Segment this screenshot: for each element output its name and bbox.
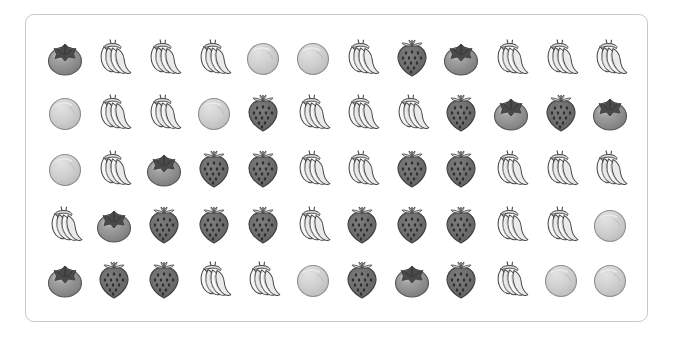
banana-icon <box>538 145 584 193</box>
fruit-cell-banana <box>290 200 336 250</box>
fruit-cell-strawberry <box>191 144 237 194</box>
fruit-cell-persimmon <box>587 88 633 138</box>
strawberry-icon <box>339 256 385 304</box>
fruit-cell-banana <box>240 255 286 305</box>
fruit-cell-orange <box>587 200 633 250</box>
fruit-cell-banana <box>587 144 633 194</box>
banana-icon <box>488 145 534 193</box>
banana-icon <box>488 34 534 82</box>
strawberry-icon <box>389 201 435 249</box>
fruit-cell-banana <box>538 33 584 83</box>
strawberry-icon <box>389 34 435 82</box>
fruit-cell-strawberry <box>339 200 385 250</box>
fruit-cell-strawberry <box>191 200 237 250</box>
orange-icon <box>42 145 88 193</box>
fruit-grid <box>26 14 649 322</box>
fruit-cell-banana <box>191 255 237 305</box>
fruit-cell-banana <box>488 144 534 194</box>
banana-icon <box>389 89 435 137</box>
fruit-cell-strawberry <box>389 144 435 194</box>
fruit-cell-orange <box>290 255 336 305</box>
fruit-cell-strawberry <box>339 255 385 305</box>
strawberry-icon <box>191 145 237 193</box>
orange-icon <box>240 34 286 82</box>
persimmon-icon <box>488 89 534 137</box>
fruit-cell-banana <box>538 144 584 194</box>
strawberry-icon <box>240 89 286 137</box>
fruit-cell-banana <box>339 88 385 138</box>
fruit-cell-banana <box>488 200 534 250</box>
fruit-cell-persimmon <box>488 88 534 138</box>
persimmon-icon <box>42 34 88 82</box>
persimmon-icon <box>141 145 187 193</box>
fruit-cell-strawberry <box>438 144 484 194</box>
orange-icon <box>191 89 237 137</box>
banana-icon <box>141 89 187 137</box>
banana-icon <box>339 89 385 137</box>
fruit-cell-persimmon <box>141 144 187 194</box>
fruit-cell-orange <box>538 255 584 305</box>
banana-icon <box>91 145 137 193</box>
fruit-cell-persimmon <box>389 255 435 305</box>
strawberry-icon <box>191 201 237 249</box>
fruit-cell-persimmon <box>42 33 88 83</box>
banana-icon <box>339 145 385 193</box>
fruit-cell-strawberry <box>438 200 484 250</box>
strawberry-icon <box>438 256 484 304</box>
strawberry-icon <box>438 145 484 193</box>
banana-icon <box>141 34 187 82</box>
strawberry-icon <box>438 201 484 249</box>
banana-icon <box>91 34 137 82</box>
banana-icon <box>488 256 534 304</box>
orange-icon <box>538 256 584 304</box>
banana-icon <box>538 201 584 249</box>
fruit-cell-banana <box>389 88 435 138</box>
fruit-cell-banana <box>290 88 336 138</box>
orange-icon <box>42 89 88 137</box>
banana-icon <box>488 201 534 249</box>
fruit-cell-orange <box>191 88 237 138</box>
fruit-cell-orange <box>42 88 88 138</box>
banana-icon <box>290 201 336 249</box>
fruit-cell-strawberry <box>438 88 484 138</box>
orange-icon <box>587 201 633 249</box>
strawberry-icon <box>141 201 187 249</box>
fruit-cell-persimmon <box>438 33 484 83</box>
fruit-cell-banana <box>339 144 385 194</box>
fruit-cell-banana <box>91 144 137 194</box>
fruit-cell-strawberry <box>438 255 484 305</box>
fruit-cell-banana <box>191 33 237 83</box>
strawberry-icon <box>141 256 187 304</box>
persimmon-icon <box>438 34 484 82</box>
strawberry-icon <box>389 145 435 193</box>
banana-icon <box>240 256 286 304</box>
strawberry-icon <box>339 201 385 249</box>
fruit-cell-orange <box>587 255 633 305</box>
fruit-cell-strawberry <box>91 255 137 305</box>
fruit-grid-screenshot <box>0 0 677 340</box>
fruit-cell-persimmon <box>42 255 88 305</box>
banana-icon <box>538 34 584 82</box>
fruit-cell-strawberry <box>240 144 286 194</box>
fruit-cell-strawberry <box>389 33 435 83</box>
fruit-cell-banana <box>91 88 137 138</box>
fruit-cell-strawberry <box>389 200 435 250</box>
fruit-cell-strawberry <box>141 255 187 305</box>
fruit-cell-banana <box>488 33 534 83</box>
strawberry-icon <box>538 89 584 137</box>
persimmon-icon <box>389 256 435 304</box>
fruit-cell-persimmon <box>91 200 137 250</box>
fruit-cell-strawberry <box>538 88 584 138</box>
banana-icon <box>191 256 237 304</box>
orange-icon <box>290 256 336 304</box>
fruit-cell-banana <box>488 255 534 305</box>
banana-icon <box>339 34 385 82</box>
fruit-cell-banana <box>339 33 385 83</box>
strawberry-icon <box>240 145 286 193</box>
fruit-cell-orange <box>240 33 286 83</box>
orange-icon <box>290 34 336 82</box>
banana-icon <box>290 145 336 193</box>
persimmon-icon <box>587 89 633 137</box>
fruit-cell-banana <box>538 200 584 250</box>
fruit-cell-strawberry <box>141 200 187 250</box>
